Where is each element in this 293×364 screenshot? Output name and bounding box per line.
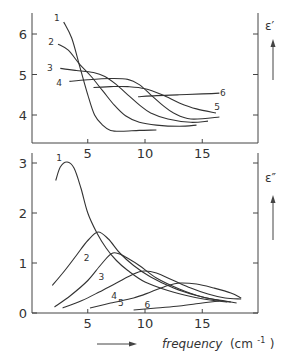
y-tick-label: 6 — [19, 27, 27, 42]
curve-label-6: 6 — [220, 88, 226, 98]
x-tick-label: 5 — [84, 146, 92, 161]
curve-label-3: 3 — [47, 63, 53, 73]
right-arrow-icon — [129, 342, 137, 347]
x-tick-label: 10 — [137, 316, 154, 331]
curve-label-3: 3 — [99, 272, 105, 282]
y-tick-label: 1 — [19, 256, 27, 271]
x-tick-label: 15 — [194, 146, 211, 161]
x-tick-label: 5 — [84, 316, 92, 331]
curve-label-1: 1 — [56, 153, 62, 163]
dielectric-figure: 51015456 123456 ε′ 510150123 123456 ε″ f… — [0, 0, 293, 364]
x-axis-title: frequency (cm -1 ) — [162, 329, 274, 351]
curve-label-4: 4 — [56, 78, 62, 88]
up-arrow-icon — [271, 39, 276, 47]
curve-label-4: 4 — [111, 291, 117, 301]
y-tick-label: 4 — [19, 108, 27, 123]
curve-4 — [69, 78, 219, 119]
curve-label-2: 2 — [48, 37, 54, 47]
curve-label-5: 5 — [118, 298, 124, 308]
x-axis-label: frequency (cm -1 ) — [97, 329, 274, 351]
bottom-curves-eps-double-prime — [52, 162, 241, 310]
up-arrow-icon-2 — [271, 195, 276, 203]
curve-3 — [55, 253, 237, 307]
top-curves-eps-prime — [58, 22, 219, 131]
eps-double-prime-axis-label: ε″ — [265, 171, 276, 240]
curve-4 — [63, 271, 242, 308]
curve-1 — [64, 22, 157, 131]
bottom-tick-labels: 510150123 — [19, 156, 211, 331]
curve-label-2: 2 — [84, 253, 90, 263]
curve-label-5: 5 — [214, 102, 220, 112]
top-curve-labels: 123456 — [47, 13, 226, 112]
bottom-panel-frame — [32, 153, 258, 313]
x-tick-label: 10 — [137, 146, 154, 161]
y-tick-label: 0 — [19, 306, 27, 321]
x-tick-label: 15 — [194, 316, 211, 331]
curve-label-1: 1 — [54, 13, 60, 23]
y-tick-label: 5 — [19, 68, 27, 83]
y-tick-label: 2 — [19, 206, 27, 221]
curve-1 — [56, 162, 228, 302]
bottom-curve-labels: 123456 — [56, 153, 150, 310]
eps-prime-label: ε′ — [265, 19, 274, 33]
curve-label-6: 6 — [144, 300, 150, 310]
eps-prime-axis-label: ε′ — [265, 19, 276, 80]
y-tick-label: 3 — [19, 156, 27, 171]
eps-double-prime-label: ε″ — [265, 171, 276, 185]
curve-5 — [94, 86, 217, 113]
